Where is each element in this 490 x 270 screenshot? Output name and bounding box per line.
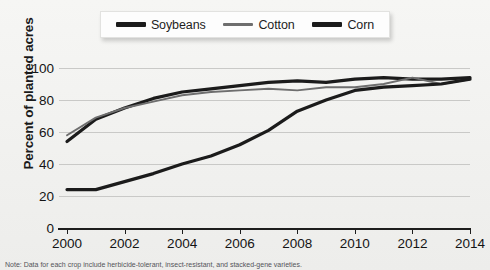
y-tick-label: 100 [31,61,54,76]
series-line-corn [67,79,470,189]
x-tick-label: 2014 [455,236,485,251]
y-tick-label: 40 [39,157,54,172]
legend-label-corn: Corn [347,18,374,32]
y-tick-label: 0 [46,221,54,236]
legend-label-cotton: Cotton [258,18,294,32]
x-tick-label: 2004 [167,236,197,251]
x-axis-tick [470,228,471,234]
x-axis-tick [67,228,68,234]
x-tick-label: 2000 [52,236,82,251]
legend-line-swatch-icon [312,22,342,27]
legend-label-soybeans: Soybeans [151,18,206,32]
legend-line-swatch-icon [116,22,146,27]
chart-legend: Soybeans Cotton Corn [100,11,390,38]
x-axis-tick [297,228,298,234]
x-axis-line [58,228,470,230]
x-tick-label: 2002 [110,236,140,251]
series-lines-group [67,68,470,228]
y-axis-title: Percent of planted acres [21,0,36,194]
x-tick-label: 2006 [225,236,255,251]
x-axis-tick [240,228,241,234]
y-tick-label: 20 [39,189,54,204]
x-tick-label: 2010 [340,236,370,251]
x-axis-tick [182,228,183,234]
y-tick-label: 60 [39,125,54,140]
plot-area: 020406080100 200020022004200620082010201… [67,68,470,228]
legend-item-cotton[interactable]: Cotton [223,18,294,32]
legend-item-soybeans[interactable]: Soybeans [116,18,206,32]
legend-item-corn[interactable]: Corn [312,18,374,32]
x-axis-tick [412,228,413,234]
chart-caption: Note: Data for each crop include herbici… [5,259,485,270]
x-tick-label: 2008 [282,236,312,251]
y-tick-label: 80 [39,93,54,108]
x-axis-tick [125,228,126,234]
legend-line-swatch-icon [223,23,253,26]
x-axis-tick [355,228,356,234]
x-tick-label: 2012 [397,236,427,251]
chart-container: Soybeans Cotton Corn Percent of planted … [0,0,490,270]
